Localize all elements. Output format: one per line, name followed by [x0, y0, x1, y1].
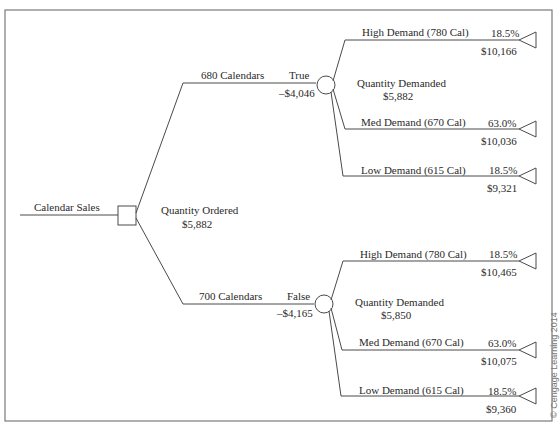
branch-label-680: 680 Calendars	[201, 69, 264, 81]
circle-node-icon	[315, 295, 333, 313]
chance-value-2: $5,850	[381, 309, 412, 321]
triangle-node-icon	[519, 32, 536, 48]
branch-value-700: –$4,165	[276, 307, 313, 319]
branch-flag-false: False	[287, 290, 310, 302]
outcome-label-2-low: Low Demand (615 Cal)	[359, 384, 464, 397]
triangle-node-icon	[519, 342, 536, 358]
outcome-payoff-2-med: $10,075	[481, 355, 517, 367]
square-node-icon	[118, 206, 136, 225]
outcome-payoff-1-high: $10,166	[481, 45, 517, 57]
branch-edge-680	[136, 83, 316, 213]
triangle-node-icon	[519, 121, 536, 137]
outcome-prob-2-low: 18.5%	[488, 385, 516, 397]
outcome-prob-2-high: 18.5%	[489, 248, 517, 260]
outcome-label-1-med: Med Demand (670 Cal)	[361, 116, 466, 129]
outcome-prob-1-med: 63.0%	[488, 117, 516, 129]
chance-label-2: Quantity Demanded	[355, 296, 444, 308]
chance-label-1: Quantity Demanded	[357, 77, 446, 89]
outcome-label-2-high: High Demand (780 Cal)	[360, 248, 467, 261]
outcome-prob-1-high: 18.5%	[491, 27, 519, 39]
outcome-prob-1-low: 18.5%	[489, 164, 517, 176]
outcome-payoff-1-low: $9,321	[487, 182, 517, 194]
triangle-node-icon	[519, 253, 536, 269]
circle-node-icon	[317, 76, 335, 94]
triangle-node-icon	[519, 168, 536, 184]
outcome-payoff-1-med: $10,036	[481, 135, 517, 147]
copyright-text: © Cengage Learning 2014	[549, 312, 559, 418]
root-label: Calendar Sales	[34, 201, 100, 213]
decision-summary-label: Quantity Ordered	[161, 204, 239, 216]
branch-value-680: –$4,046	[278, 87, 315, 99]
branch-label-700: 700 Calendars	[199, 290, 262, 302]
branch-flag-true: True	[289, 69, 309, 81]
decision-tree-diagram: Calendar Sales Quantity Ordered $5,882 6…	[0, 0, 560, 426]
outcome-label-1-low: Low Demand (615 Cal)	[361, 164, 466, 177]
outcome-payoff-2-low: $9,360	[486, 403, 517, 415]
triangle-node-icon	[519, 388, 536, 404]
outcome-label-2-med: Med Demand (670 Cal)	[359, 336, 464, 349]
outcome-label-1-high: High Demand (780 Cal)	[362, 26, 469, 39]
chance-value-1: $5,882	[383, 90, 413, 102]
outcome-prob-2-med: 63.0%	[488, 337, 516, 349]
outcome-payoff-2-high: $10,465	[481, 266, 517, 278]
decision-summary-value: $5,882	[182, 218, 212, 230]
